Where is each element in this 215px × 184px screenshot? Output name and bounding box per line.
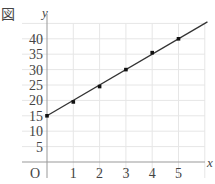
x-axis-label: x: [206, 155, 213, 170]
y-tick-label: 5: [36, 140, 43, 155]
y-tick-label: 20: [29, 93, 43, 108]
y-tick-label: 30: [29, 63, 43, 78]
x-tick-label: 3: [122, 166, 129, 181]
y-axis-label: y: [40, 5, 48, 20]
data-point: [72, 100, 76, 104]
data-point: [150, 51, 154, 55]
x-tick-label: 2: [96, 166, 103, 181]
line-chart: 12345510152025303540 y x O: [0, 0, 215, 184]
data-point: [98, 85, 102, 89]
origin-label: O: [30, 166, 40, 181]
y-tick-label: 25: [29, 78, 43, 93]
x-tick-label: 4: [149, 166, 156, 181]
data-point: [177, 37, 181, 41]
y-tick-label: 35: [29, 47, 43, 62]
y-tick-label: 10: [29, 124, 43, 139]
y-tick-label: 40: [29, 32, 43, 47]
data-point: [124, 68, 128, 72]
data-point: [45, 114, 49, 118]
y-tick-label: 15: [29, 109, 43, 124]
x-tick-label: 1: [70, 166, 77, 181]
grid: [22, 23, 205, 178]
x-tick-label: 5: [175, 166, 182, 181]
